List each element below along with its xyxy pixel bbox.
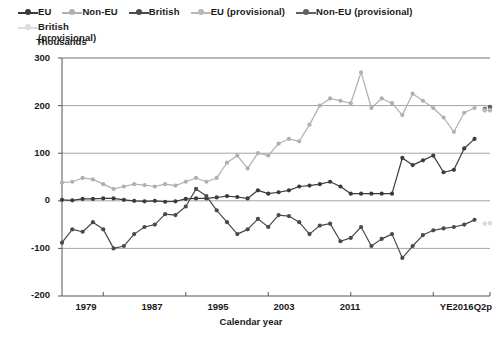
- data-point-british: [246, 227, 250, 231]
- data-point-british: [369, 244, 373, 248]
- data-point-eu: [70, 198, 74, 202]
- data-point-non-eu: [122, 184, 126, 188]
- data-point-eu: [276, 190, 280, 194]
- data-point-non-eu: [359, 70, 363, 74]
- data-point-british: [338, 239, 342, 243]
- y-tick-100: 100: [16, 147, 50, 158]
- data-point-non-eu: [204, 180, 208, 184]
- data-point-non-eu: [297, 139, 301, 143]
- data-point-eu: [462, 146, 466, 150]
- x-axis-title: Calendar year: [0, 316, 502, 327]
- data-point-british: [122, 244, 126, 248]
- data-point-non-eu: [287, 137, 291, 141]
- y-tick-200: 200: [16, 100, 50, 111]
- data-point-non-eu: [215, 176, 219, 180]
- data-point-non-eu: [235, 153, 239, 157]
- data-point-eu: [390, 192, 394, 196]
- data-point-eu: [163, 200, 167, 204]
- data-point-eu: [318, 182, 322, 186]
- data-point-non-eu: [256, 151, 260, 155]
- data-point-eu: [246, 196, 250, 200]
- provisional-point-eu-provisional-: [488, 108, 493, 113]
- data-point-non-eu: [81, 176, 85, 180]
- y-tick-0: 0: [16, 194, 50, 205]
- data-point-non-eu: [318, 104, 322, 108]
- data-point-british: [153, 223, 157, 227]
- data-point-eu: [153, 199, 157, 203]
- data-point-eu: [421, 158, 425, 162]
- x-tick-1979: 1979: [60, 301, 112, 312]
- data-point-british: [328, 222, 332, 226]
- data-point-non-eu: [400, 113, 404, 117]
- plot-area: [0, 0, 502, 338]
- data-point-non-eu: [421, 99, 425, 103]
- data-point-british: [91, 220, 95, 224]
- data-point-british: [318, 223, 322, 227]
- x-tick-1995: 1995: [192, 301, 244, 312]
- data-point-eu: [369, 192, 373, 196]
- data-point-non-eu: [411, 92, 415, 96]
- data-point-non-eu: [132, 182, 136, 186]
- data-point-british: [60, 241, 64, 245]
- data-point-non-eu: [60, 181, 64, 185]
- y-tick-300: 300: [16, 52, 50, 63]
- data-point-british: [173, 213, 177, 217]
- data-point-eu: [194, 196, 198, 200]
- data-point-non-eu: [153, 184, 157, 188]
- data-point-eu: [173, 199, 177, 203]
- data-point-eu: [431, 153, 435, 157]
- data-point-non-eu: [111, 187, 115, 191]
- x-tick-ye2016q2p: YE2016Q2p: [430, 301, 502, 312]
- data-point-british: [472, 218, 476, 222]
- data-point-eu: [287, 188, 291, 192]
- data-point-british: [266, 225, 270, 229]
- data-point-eu: [101, 196, 105, 200]
- data-point-british: [101, 227, 105, 231]
- data-point-non-eu: [163, 182, 167, 186]
- data-point-non-eu: [380, 96, 384, 100]
- data-point-eu: [142, 199, 146, 203]
- data-point-non-eu: [194, 176, 198, 180]
- data-point-british: [111, 246, 115, 250]
- data-point-british: [349, 236, 353, 240]
- data-point-british: [81, 230, 85, 234]
- provisional-point-eu-provisional-: [483, 108, 488, 113]
- data-point-british: [287, 214, 291, 218]
- data-point-non-eu: [307, 123, 311, 127]
- data-point-non-eu: [431, 106, 435, 110]
- data-point-non-eu: [266, 153, 270, 157]
- data-point-non-eu: [452, 130, 456, 134]
- data-point-british: [204, 194, 208, 198]
- data-point-british: [276, 213, 280, 217]
- data-point-non-eu: [338, 99, 342, 103]
- data-point-eu: [472, 137, 476, 141]
- data-point-non-eu: [369, 106, 373, 110]
- data-point-eu: [307, 183, 311, 187]
- data-point-british: [400, 256, 404, 260]
- data-point-eu: [328, 180, 332, 184]
- data-point-british: [132, 232, 136, 236]
- data-point-british: [184, 204, 188, 208]
- data-point-eu: [452, 168, 456, 172]
- data-point-eu: [235, 195, 239, 199]
- migration-line-chart: EU Non-EU British EU (provisional) Non-E…: [0, 0, 502, 338]
- data-point-eu: [359, 192, 363, 196]
- y-tick-minus-200: -200: [16, 289, 50, 300]
- data-point-british: [380, 237, 384, 241]
- data-point-eu: [122, 198, 126, 202]
- data-point-british: [421, 233, 425, 237]
- data-point-non-eu: [462, 111, 466, 115]
- data-point-british: [390, 232, 394, 236]
- data-point-british: [215, 208, 219, 212]
- x-tick-1987: 1987: [126, 301, 178, 312]
- data-point-eu: [132, 199, 136, 203]
- data-point-eu: [411, 163, 415, 167]
- data-point-non-eu: [328, 96, 332, 100]
- data-point-british: [297, 220, 301, 224]
- data-point-eu: [400, 156, 404, 160]
- data-point-british: [359, 225, 363, 229]
- data-point-british: [452, 225, 456, 229]
- data-point-non-eu: [441, 115, 445, 119]
- provisional-point-british-provisional-: [488, 221, 493, 226]
- data-point-eu: [266, 192, 270, 196]
